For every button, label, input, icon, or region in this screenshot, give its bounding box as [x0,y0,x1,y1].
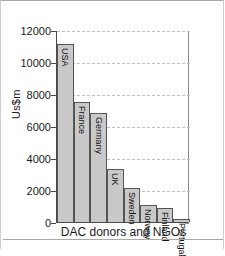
bar-label: Germany [94,117,104,154]
y-axis-tick-label: 12000 [3,26,51,37]
y-axis-tick-label: 2000 [3,186,51,197]
bar-portugal[interactable]: Portugal [173,219,190,222]
bar-label: UK [110,173,120,186]
y-axis-tick-label: 8000 [3,90,51,101]
bar-label: USA [60,48,70,67]
bar-uk[interactable]: UK [107,169,124,222]
bar-chart-figure: Us$m 020004000600080001000012000 USAFran… [1,1,225,250]
bar-sweden[interactable]: Sweden [124,188,141,222]
right-axis-tick [185,223,189,224]
bottom-divider [3,239,223,240]
bar-usa[interactable]: USA [57,44,74,222]
gridline [57,31,190,32]
y-axis-tick-label: 6000 [3,122,51,133]
bar-france[interactable]: France [74,102,91,222]
y-axis-tick-label: 4000 [3,154,51,165]
bar-norway[interactable]: Norway [140,205,157,222]
y-axis-tick [51,223,56,224]
plot-area: USAFranceGermanyUKSwedenNorwayFinlandPor… [56,31,189,223]
bar-label: Sweden [127,192,137,225]
bar-germany[interactable]: Germany [90,113,107,222]
bar-finland[interactable]: Finland [157,208,174,222]
gridline [57,95,190,96]
x-axis-title: DAC donors and NGOs [41,225,206,239]
gridline [57,63,190,64]
bar-label: France [77,106,87,134]
y-axis-tick-label: 10000 [3,58,51,69]
